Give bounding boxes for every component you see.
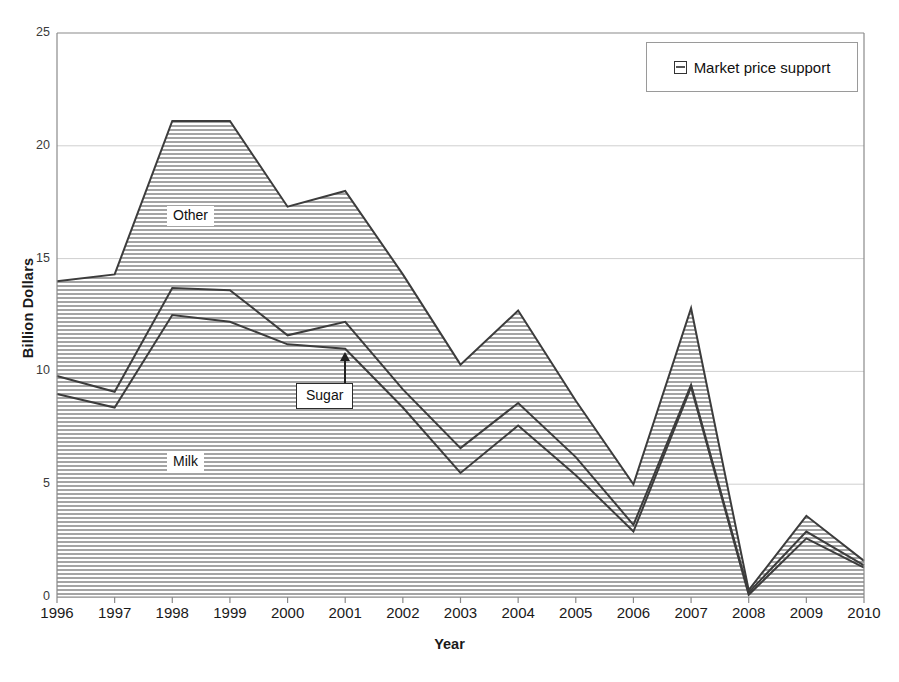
x-axis-title: Year xyxy=(0,636,899,652)
legend-swatch-icon xyxy=(674,61,687,74)
x-axis-tick-2010: 2010 xyxy=(829,604,899,621)
market-price-support-area-chart: 0510152025 19961997199819992000200120022… xyxy=(0,0,899,682)
chart-legend[interactable]: Market price support xyxy=(646,42,858,92)
series-label-other: Other xyxy=(167,206,214,226)
series-label-sugar: Sugar xyxy=(296,383,353,409)
series-label-milk: Milk xyxy=(167,452,204,472)
y-axis-title: Billion Dollars xyxy=(20,228,36,388)
legend-label: Market price support xyxy=(694,59,831,76)
x-axis-tick-labels: 1996199719981999200020012002200320042005… xyxy=(0,0,899,682)
